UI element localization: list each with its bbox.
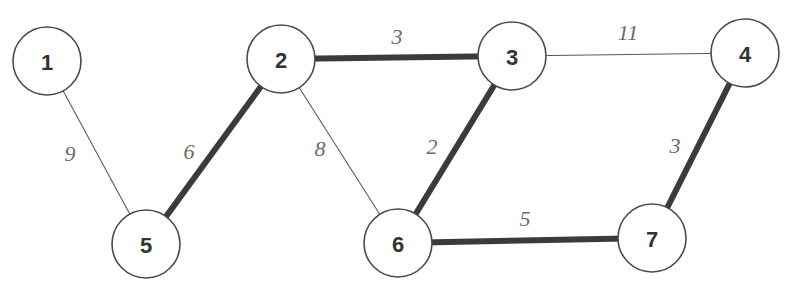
node-label: 6	[392, 232, 404, 257]
node-label: 4	[739, 42, 752, 67]
node-7: 7	[618, 204, 686, 272]
node-4: 4	[711, 19, 779, 87]
node-label: 2	[275, 48, 287, 73]
graph-canvas: 963821153 1234567	[0, 0, 792, 283]
edge-labels-layer: 963821153	[65, 20, 681, 231]
node-3: 3	[478, 22, 546, 90]
edge-weight-label-1-5: 9	[65, 141, 76, 166]
edge-6-7	[398, 238, 652, 243]
edge-weight-label-3-4: 11	[618, 20, 638, 45]
edge-3-4	[512, 53, 745, 56]
node-5: 5	[112, 210, 180, 278]
node-label: 5	[140, 233, 152, 258]
node-2: 2	[247, 25, 315, 93]
edge-weight-label-6-7: 5	[520, 206, 531, 231]
node-6: 6	[364, 209, 432, 277]
edge-weight-label-2-6: 8	[315, 136, 326, 161]
node-1: 1	[13, 27, 81, 95]
node-label: 1	[41, 50, 53, 75]
edge-weight-label-3-6: 2	[427, 134, 438, 159]
node-label: 7	[646, 227, 658, 252]
edge-weight-label-4-7: 3	[669, 133, 681, 158]
edge-weight-label-5-2: 6	[184, 139, 195, 164]
node-label: 3	[506, 45, 518, 70]
edge-weight-label-2-3: 3	[391, 24, 403, 49]
